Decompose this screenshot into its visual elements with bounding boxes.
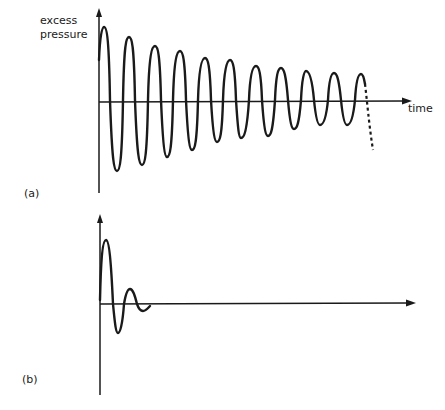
x-axis-arrow-icon bbox=[406, 300, 416, 307]
damped-curve-b bbox=[100, 240, 150, 333]
y-axis-arrow-icon bbox=[96, 8, 102, 17]
oscillation-curve-a bbox=[99, 27, 365, 171]
panel-label-b: (b) bbox=[22, 373, 38, 386]
panel-a: excess pressure time (a) bbox=[24, 8, 433, 200]
panel-label-a: (a) bbox=[24, 187, 39, 200]
dashed-continuation-a bbox=[365, 84, 373, 150]
y-axis-label-excess: excess bbox=[40, 14, 77, 27]
figure: excess pressure time (a) (b) bbox=[0, 0, 445, 410]
panel-b: (b) bbox=[22, 214, 416, 395]
x-axis-label-time: time bbox=[408, 102, 433, 115]
x-axis-a bbox=[99, 101, 404, 102]
y-axis-label-pressure: pressure bbox=[40, 28, 88, 41]
y-axis-arrow-icon bbox=[97, 214, 103, 223]
x-axis-b bbox=[100, 303, 408, 304]
